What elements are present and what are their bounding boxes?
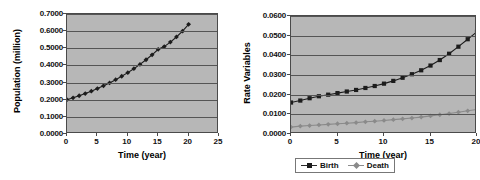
- y-tick-mark: [63, 116, 66, 117]
- population-y-axis-title: Population (million): [12, 21, 22, 121]
- data-point-marker: [438, 58, 442, 62]
- data-point-marker: [465, 108, 470, 113]
- data-point-marker: [400, 116, 405, 121]
- x-tick-label: 15: [153, 137, 162, 146]
- y-tick-label: 0.4000: [40, 60, 63, 69]
- legend-item-death: Death: [348, 161, 389, 170]
- x-tick-label: 10: [122, 137, 131, 146]
- x-tick-label: 20: [183, 137, 192, 146]
- gridline: [291, 114, 475, 115]
- gridline: [67, 83, 217, 84]
- data-point-marker: [95, 86, 100, 91]
- y-tick-label: 0.0400: [263, 50, 286, 59]
- population-y-axis-ticks: 0.00000.10000.20000.30000.40000.50000.60…: [26, 0, 63, 180]
- data-point-marker: [307, 123, 312, 128]
- birth-marker-icon: [301, 162, 317, 169]
- gridline: [67, 65, 217, 66]
- x-tick-mark: [188, 133, 189, 136]
- data-point-marker: [475, 107, 476, 112]
- rates-chart: 0.00000.01000.02000.03000.04000.05000.06…: [233, 0, 467, 180]
- y-tick-label: 0.5000: [40, 43, 63, 52]
- death-marker-icon: [348, 162, 364, 169]
- y-tick-label: 0.0000: [263, 129, 286, 138]
- rates-y-axis-title: Rate Variables: [242, 33, 252, 113]
- data-point-marker: [456, 45, 460, 49]
- x-tick-mark: [66, 133, 67, 136]
- data-point-marker: [83, 91, 88, 96]
- y-tick-label: 0.0000: [40, 129, 63, 138]
- data-point-marker: [89, 89, 94, 94]
- x-tick-mark: [337, 133, 338, 136]
- y-tick-label: 0.7000: [40, 9, 63, 18]
- x-tick-label: 5: [94, 137, 98, 146]
- y-tick-label: 0.6000: [40, 26, 63, 35]
- data-point-marker: [401, 76, 405, 80]
- data-point-marker: [382, 82, 386, 86]
- y-tick-mark: [63, 30, 66, 31]
- data-point-marker: [466, 37, 470, 41]
- x-tick-label: 0: [288, 137, 292, 146]
- y-tick-label: 0.0200: [263, 89, 286, 98]
- data-point-marker: [410, 116, 415, 121]
- data-point-marker: [113, 77, 118, 82]
- x-tick-label: 0: [64, 137, 68, 146]
- gridline: [291, 75, 475, 76]
- y-tick-mark: [287, 94, 290, 95]
- y-tick-mark: [63, 99, 66, 100]
- x-tick-mark: [218, 133, 219, 136]
- y-tick-label: 0.0600: [263, 11, 286, 20]
- data-point-marker: [326, 122, 331, 127]
- x-tick-label: 10: [379, 137, 388, 146]
- data-point-marker: [391, 117, 396, 122]
- x-tick-mark: [96, 133, 97, 136]
- y-tick-label: 0.0300: [263, 70, 286, 79]
- gridline: [291, 95, 475, 96]
- y-tick-label: 0.3000: [40, 77, 63, 86]
- data-point-marker: [419, 115, 424, 120]
- gridline: [67, 48, 217, 49]
- y-tick-mark: [287, 54, 290, 55]
- y-tick-mark: [287, 74, 290, 75]
- data-point-marker: [475, 30, 476, 34]
- gridline: [67, 100, 217, 101]
- data-point-marker: [363, 119, 368, 124]
- data-point-marker: [354, 120, 359, 125]
- gridline: [291, 36, 475, 37]
- data-point-marker: [382, 118, 387, 123]
- gridline: [291, 55, 475, 56]
- x-tick-mark: [383, 133, 384, 136]
- x-tick-label: 15: [425, 137, 434, 146]
- y-tick-label: 0.0100: [263, 109, 286, 118]
- data-point-marker: [298, 124, 303, 129]
- x-tick-label: 25: [214, 137, 223, 146]
- y-tick-mark: [63, 82, 66, 83]
- y-tick-mark: [63, 13, 66, 14]
- data-point-marker: [391, 79, 395, 83]
- data-point-marker: [77, 93, 82, 98]
- data-point-marker: [119, 74, 124, 79]
- y-tick-label: 0.1000: [40, 111, 63, 120]
- y-tick-mark: [63, 47, 66, 48]
- data-point-marker: [291, 100, 293, 104]
- x-tick-mark: [476, 133, 477, 136]
- x-tick-label: 20: [472, 137, 480, 146]
- data-point-marker: [308, 96, 312, 100]
- data-point-marker: [419, 68, 423, 72]
- gridline: [67, 117, 217, 118]
- y-tick-label: 0.0500: [263, 30, 286, 39]
- population-x-axis-title: Time (year): [66, 150, 218, 160]
- data-point-marker: [363, 86, 367, 90]
- data-point-marker: [335, 121, 340, 126]
- gridline: [67, 14, 217, 15]
- data-point-marker: [354, 88, 358, 92]
- x-tick-mark: [430, 133, 431, 136]
- data-point-marker: [291, 125, 293, 130]
- data-point-marker: [372, 119, 377, 124]
- data-point-marker: [373, 84, 377, 88]
- rates-legend: Birth Death: [295, 158, 395, 173]
- y-tick-mark: [287, 15, 290, 16]
- x-tick-mark: [127, 133, 128, 136]
- gridline: [67, 31, 217, 32]
- series-line: [67, 24, 189, 99]
